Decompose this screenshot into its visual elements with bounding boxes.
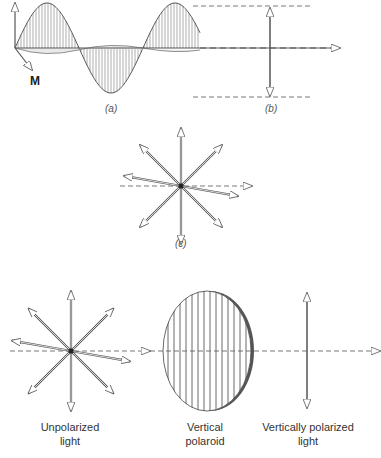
caption-b: (b) — [265, 103, 277, 114]
unpolarized-label-1: Unpolarized — [41, 421, 100, 433]
polarization-diagram: M (a) (b) (c) Unpolarized light Vertical… — [0, 0, 381, 458]
polaroid-label-1: Vertical — [187, 421, 223, 433]
axis-label-m: M — [30, 74, 40, 88]
panel-a-wave — [15, 3, 340, 93]
caption-c: (c) — [175, 238, 187, 249]
polarized-label-2: light — [298, 435, 318, 447]
polaroid-label-2: polaroid — [185, 435, 224, 447]
polarized-label-1: Vertically polarized — [262, 421, 354, 433]
panel-b — [193, 6, 310, 97]
unpolarized-label-2: light — [60, 435, 80, 447]
caption-a: (a) — [105, 103, 117, 114]
